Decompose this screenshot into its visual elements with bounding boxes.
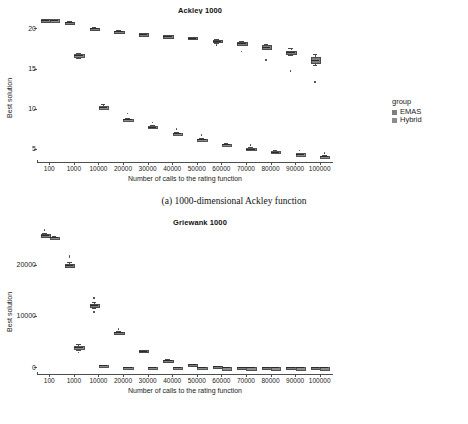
median-line [262, 47, 270, 48]
x-tick-mark [246, 162, 247, 165]
x-tick-label: 20000 [114, 165, 132, 172]
x-tick-label: 10000 [89, 377, 107, 384]
median-line [41, 20, 49, 21]
outlier-point [265, 59, 266, 60]
median-line [173, 367, 181, 368]
outlier-point [69, 257, 70, 258]
y-tick-label: 20000 [10, 261, 36, 268]
y-tick-label: 20 [10, 25, 36, 32]
legend-swatch-icon [392, 110, 397, 115]
median-line [188, 364, 196, 365]
x-tick-label: 100000 [309, 165, 331, 172]
median-line [163, 36, 171, 37]
y-tick-label: 10 [10, 105, 36, 112]
x-tick-mark [197, 374, 198, 377]
y-tick-label: 0 [10, 364, 36, 371]
median-line [246, 367, 254, 368]
median-line [271, 152, 279, 153]
median-line [222, 144, 230, 145]
y-tick-mark [34, 265, 37, 266]
median-line [197, 367, 205, 368]
legend-item-hybrid[interactable]: Hybrid [392, 116, 422, 124]
x-tick-mark [271, 162, 272, 165]
median-line [173, 133, 181, 134]
x-tick-label: 90000 [286, 377, 304, 384]
x-tick-mark [271, 374, 272, 377]
x-tick-label: 10000 [89, 165, 107, 172]
outlier-point [176, 128, 177, 129]
y-tick-mark [34, 316, 37, 317]
median-line [99, 107, 107, 108]
median-line [271, 367, 279, 368]
median-line [50, 20, 58, 21]
cap-upper [313, 54, 318, 55]
x-tick-label: 40000 [163, 165, 181, 172]
x-tick-mark [221, 374, 222, 377]
figure-griewank: Griewank 1000 Best solution 01000020000 … [0, 212, 468, 424]
x-axis-label-ackley: Number of calls to the rating function [37, 175, 333, 182]
median-line [237, 367, 245, 368]
median-line [311, 367, 319, 368]
median-line [320, 367, 328, 368]
outlier-point [69, 255, 70, 256]
x-tick-mark [172, 374, 173, 377]
y-tick-label: 10000 [10, 312, 36, 319]
x-tick-label: 100 [44, 377, 55, 384]
x-tick-mark [221, 162, 222, 165]
x-tick-mark [148, 162, 149, 165]
median-line [320, 156, 328, 157]
outlier-point [44, 229, 45, 230]
y-tick-mark [34, 109, 37, 110]
x-tick-mark [148, 374, 149, 377]
y-tick-mark [34, 69, 37, 70]
cap-upper [288, 48, 293, 49]
median-line [90, 28, 98, 29]
x-tick-label: 60000 [212, 377, 230, 384]
median-line [74, 347, 82, 348]
x-tick-label: 100 [44, 165, 55, 172]
cap-upper [76, 344, 81, 345]
median-line [114, 31, 122, 32]
median-line [123, 119, 131, 120]
x-tick-mark [74, 162, 75, 165]
cap-lower [313, 65, 318, 66]
outlier-point [93, 297, 94, 298]
median-line [197, 139, 205, 140]
median-line [114, 332, 122, 333]
x-tick-label: 50000 [188, 165, 206, 172]
median-line [65, 22, 73, 23]
outlier-point [324, 152, 325, 153]
x-tick-mark [98, 374, 99, 377]
figure-caption-a: (a) 1000-dimensional Ackley function [0, 196, 468, 206]
median-line [296, 367, 304, 368]
y-axis-ticks-ackley: 5101520 [6, 14, 36, 174]
x-axis-line-ackley [37, 162, 333, 163]
x-tick-mark [320, 162, 321, 165]
x-tick-mark [246, 374, 247, 377]
x-tick-mark [197, 162, 198, 165]
median-line [286, 367, 294, 368]
median-line [99, 365, 107, 366]
median-line [163, 360, 171, 361]
boxplot-canvas-griewank [37, 226, 332, 372]
x-tick-label: 70000 [237, 165, 255, 172]
x-tick-label: 30000 [139, 165, 157, 172]
outlier-point [93, 311, 94, 312]
y-tick-label: 15 [10, 65, 36, 72]
plot-area-griewank: Best solution 01000020000 10010001000020… [0, 226, 468, 386]
x-tick-mark [49, 162, 50, 165]
x-tick-label: 80000 [261, 165, 279, 172]
median-line [246, 149, 254, 150]
legend-label-hybrid: Hybrid [400, 116, 422, 124]
x-tick-mark [123, 374, 124, 377]
median-line [213, 366, 221, 367]
outlier-point [290, 70, 291, 71]
figure-ackley: Ackley 1000 Best solution 5101520 100100… [0, 0, 468, 212]
y-tick-label: 5 [10, 145, 36, 152]
median-line [139, 351, 147, 352]
outlier-point [241, 51, 242, 52]
x-tick-mark [295, 162, 296, 165]
legend-ackley: group EMAS Hybrid [392, 97, 422, 124]
median-line [90, 305, 98, 306]
x-tick-label: 1000 [67, 165, 81, 172]
